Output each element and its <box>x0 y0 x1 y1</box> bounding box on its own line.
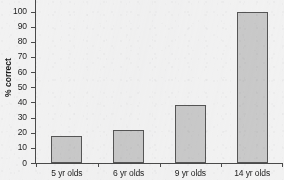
bar <box>113 130 144 163</box>
y-axis-tick: 90 <box>0 27 35 28</box>
bar <box>237 12 268 164</box>
y-axis-tick: 0 <box>0 163 35 164</box>
x-axis-category-label: 6 yr olds <box>99 168 159 178</box>
y-axis-tick-label: 0 <box>5 159 27 168</box>
y-axis-tick: 70 <box>0 57 35 58</box>
plot-area: % correct 0102030405060708090100 5 yr ol… <box>0 0 284 180</box>
y-axis-tick-label: 80 <box>5 37 27 46</box>
bar-chart-screenshot: % correct 0102030405060708090100 5 yr ol… <box>0 0 284 180</box>
y-axis-tick-label: 70 <box>5 52 27 61</box>
y-axis-tick: 10 <box>0 148 35 149</box>
x-axis-tick-mark <box>160 163 161 167</box>
bar <box>51 136 82 163</box>
x-axis-category-label: 14 yr olds <box>222 168 282 178</box>
x-axis-tick-mark <box>282 163 283 167</box>
x-axis-tick-mark <box>98 163 99 167</box>
x-axis-category-label: 5 yr olds <box>37 168 97 178</box>
y-axis-tick-label: 20 <box>5 128 27 137</box>
y-axis-tick-label: 30 <box>5 113 27 122</box>
y-axis-tick: 80 <box>0 42 35 43</box>
y-axis-tick-label: 40 <box>5 98 27 107</box>
y-axis-tick-label: 60 <box>5 68 27 77</box>
y-axis-tick: 20 <box>0 133 35 134</box>
y-axis-tick-label: 10 <box>5 143 27 152</box>
x-axis-tick-mark <box>221 163 222 167</box>
y-axis-tick: 40 <box>0 102 35 103</box>
y-axis-tick-label: 100 <box>5 7 27 16</box>
y-axis-tick-label: 50 <box>5 83 27 92</box>
x-axis-category-label: 9 yr olds <box>160 168 220 178</box>
y-axis-tick: 60 <box>0 72 35 73</box>
y-axis-tick: 50 <box>0 87 35 88</box>
y-axis-tick: 30 <box>0 118 35 119</box>
x-axis-tick-mark <box>36 163 37 167</box>
y-axis-line <box>35 0 36 164</box>
y-axis-tick-label: 90 <box>5 22 27 31</box>
bar <box>175 105 206 163</box>
y-axis-tick: 100 <box>0 12 35 13</box>
